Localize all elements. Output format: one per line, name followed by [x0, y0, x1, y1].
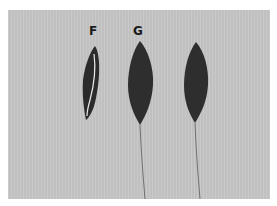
specimen-photo: F G	[8, 10, 270, 199]
seed-third	[184, 42, 208, 199]
label-f: F	[89, 25, 97, 37]
seed-specimens-graphic	[8, 10, 270, 199]
seed-g	[128, 41, 153, 199]
seed-f	[83, 46, 100, 120]
label-g: G	[133, 25, 143, 37]
